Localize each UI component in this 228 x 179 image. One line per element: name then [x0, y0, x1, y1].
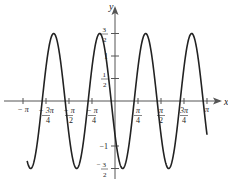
svg-text:4: 4 — [92, 116, 96, 125]
svg-text:π: π — [136, 106, 141, 115]
svg-text:2: 2 — [69, 116, 73, 125]
svg-text:4: 4 — [46, 116, 50, 125]
svg-text:2: 2 — [103, 81, 107, 89]
cosine-graph: x y − π− 3π4− π2− π4π4π23π4π32112−1− 32 — [0, 0, 228, 179]
svg-text:− 3: − 3 — [97, 161, 107, 169]
x-tick-label: π — [205, 105, 210, 114]
svg-text:4: 4 — [182, 116, 186, 125]
y-tick-fraction-label: 12 — [101, 71, 108, 89]
svg-text:2: 2 — [103, 171, 107, 179]
svg-text:3: 3 — [103, 26, 107, 34]
y-tick-fraction-label: 32 — [101, 26, 108, 44]
svg-text:π: π — [159, 106, 164, 115]
svg-text:3π: 3π — [179, 106, 189, 115]
y-tick-fraction-label: − 32 — [97, 161, 108, 179]
x-tick-label: − π — [17, 105, 29, 114]
x-tick-fraction-label: 3π4 — [179, 106, 189, 125]
x-tick-fraction-label: − π2 — [63, 106, 75, 125]
svg-text:4: 4 — [136, 116, 140, 125]
y-axis-label: y — [108, 1, 114, 12]
x-tick-fraction-label: − π4 — [86, 106, 98, 125]
x-tick-fraction-label: π4 — [134, 106, 142, 125]
y-tick-label: −1 — [99, 142, 108, 151]
x-axis-label: x — [223, 96, 228, 107]
svg-text:1: 1 — [103, 71, 107, 79]
